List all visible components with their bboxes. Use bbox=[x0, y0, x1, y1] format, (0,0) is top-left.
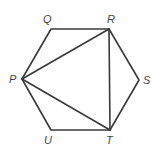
segment-PT bbox=[22, 79, 110, 130]
segment-PR bbox=[22, 29, 109, 79]
vertex-label-u: U bbox=[44, 134, 52, 146]
hexagon-diagram: Q R P S U T bbox=[0, 0, 152, 153]
vertex-label-q: Q bbox=[43, 13, 52, 25]
vertex-label-s: S bbox=[143, 74, 151, 86]
vertex-label-t: T bbox=[106, 134, 114, 146]
segment-RT bbox=[109, 29, 110, 130]
diagram-svg: Q R P S U T bbox=[0, 0, 152, 153]
hexagon-outline bbox=[22, 29, 139, 130]
vertex-label-p: P bbox=[9, 73, 17, 85]
vertex-label-r: R bbox=[107, 13, 115, 25]
